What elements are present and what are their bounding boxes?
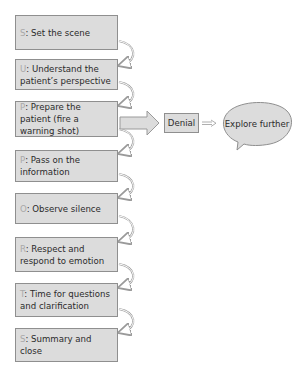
step-understand-perspective: U: Understand the patient’s perspective (15, 59, 118, 90)
step-set-the-scene: S: Set the scene (15, 15, 118, 50)
step-respect-emotion: R: Respect and respond to emotion (15, 237, 118, 272)
step-text: : Time for questions and clarification (20, 289, 110, 311)
explore-further-label: Explore further (222, 106, 292, 142)
step-text: : Observe silence (27, 204, 101, 214)
step-text: : Prepare the patient (fire a warning sh… (20, 102, 81, 136)
step-text: : Understand the patient’s perspective (20, 64, 111, 86)
small-arrow-icon (202, 120, 216, 127)
step-time-for-questions: T: Time for questions and clarification (15, 283, 118, 317)
step-text: : Summary and close (20, 334, 92, 356)
step-text: : Respect and respond to emotion (20, 244, 104, 266)
step-summary-close: S: Summary and close (15, 328, 118, 362)
step-letter: O (20, 204, 27, 214)
denial-box: Denial (164, 113, 199, 133)
step-text: : Pass on the information (20, 155, 80, 177)
step-pass-on-information: P: Pass on the information (15, 150, 118, 182)
step-prepare-patient: P: Prepare the patient (fire a warning s… (15, 101, 118, 137)
step-observe-silence: O: Observe silence (15, 193, 118, 224)
step-text: : Set the scene (25, 28, 90, 38)
